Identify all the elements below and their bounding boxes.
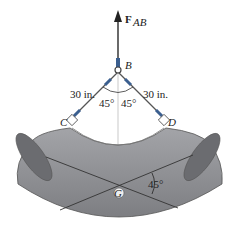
ring-b bbox=[115, 67, 121, 73]
sleeve-b-left bbox=[105, 79, 111, 85]
sleeve-c bbox=[74, 110, 80, 116]
sleeve-b-right bbox=[125, 79, 131, 85]
point-c-label: C bbox=[60, 116, 68, 128]
left-cable-length-label: 30 in. bbox=[70, 88, 95, 100]
pipe-lifting-diagram: F AB 45° G B C D 30 in. 30 in. bbox=[0, 0, 233, 240]
pipe-angle-label: 45° bbox=[148, 178, 163, 190]
force-subscript: AB bbox=[132, 16, 147, 28]
point-b-label: B bbox=[125, 59, 132, 71]
left-angle-label: 45° bbox=[99, 97, 114, 109]
sleeve-d bbox=[156, 110, 162, 116]
right-cable-length-label: 30 in. bbox=[143, 88, 168, 100]
force-arrow bbox=[114, 10, 122, 58]
right-angle-label: 45° bbox=[121, 97, 136, 109]
point-g-label: G bbox=[114, 187, 122, 199]
force-label: F bbox=[125, 13, 132, 25]
point-d-label: D bbox=[167, 116, 176, 128]
arrow-head-icon bbox=[114, 10, 122, 22]
